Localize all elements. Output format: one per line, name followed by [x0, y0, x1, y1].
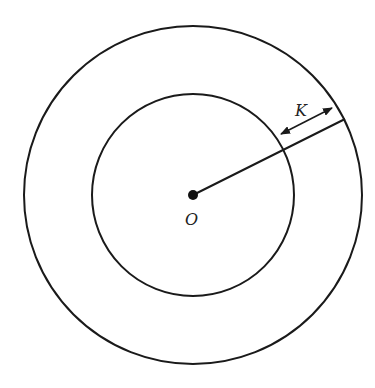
concentric-circles-diagram: O K [0, 0, 375, 388]
center-point [188, 190, 198, 200]
gap-label: K [294, 101, 308, 120]
radius-line [193, 119, 345, 195]
center-label: O [185, 210, 198, 229]
